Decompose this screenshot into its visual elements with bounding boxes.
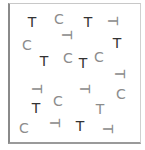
rotated-t-glyph: T (30, 82, 44, 96)
letter-c-glyph: C (114, 87, 128, 101)
letter-t-glyph: T (25, 15, 39, 29)
rotated-t-glyph: T (106, 14, 120, 28)
rotated-t-glyph: T (101, 122, 115, 136)
letter-t-glyph: T (110, 36, 124, 50)
letter-c-glyph: C (20, 38, 34, 52)
letter-c-glyph: C (52, 12, 66, 26)
letter-c-glyph: C (92, 50, 106, 64)
letter-c-glyph: C (61, 51, 75, 65)
letter-t-glyph: T (29, 101, 43, 115)
rotated-t-glyph: T (113, 67, 127, 81)
rotated-t-glyph: T (60, 28, 74, 42)
letter-c-glyph: C (51, 94, 65, 108)
letter-t-glyph: T (93, 102, 107, 116)
letter-t-glyph: T (76, 56, 90, 70)
letter-t-glyph: T (73, 119, 87, 133)
letter-t-glyph: T (81, 15, 95, 29)
rotated-t-glyph: T (48, 116, 62, 130)
letter-t-glyph: T (37, 54, 51, 68)
rotated-t-glyph: T (78, 82, 92, 96)
letter-c-glyph: C (17, 121, 31, 135)
